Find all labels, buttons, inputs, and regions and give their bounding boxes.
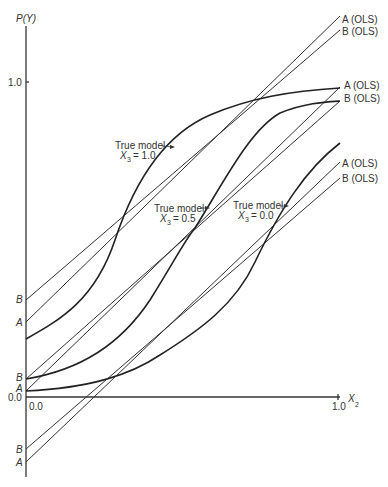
intercept-labels: B A B A B A (15, 294, 23, 468)
svg-text:= 0.5: = 0.5 (173, 213, 196, 224)
svg-text:= 0.0: = 0.0 (251, 210, 274, 221)
y-tick-label-1: 1.0 (8, 77, 22, 88)
label-b-middle: B (16, 372, 23, 383)
ols-b-x3-1 (26, 30, 340, 300)
label-a-upper: A (15, 317, 23, 328)
x-tick-label-0: 0.0 (29, 401, 43, 412)
ols-label-a-1: A (OLS) (342, 14, 378, 25)
chart: B A B A B A P(Y) 1.0 0.0 0.0 1.0 X 2 A (… (0, 0, 388, 487)
ols-label-b-1: B (OLS) (342, 26, 378, 37)
ols-label-a-05: A (OLS) (344, 80, 380, 91)
svg-text:X: X (159, 213, 167, 224)
y-tick-label-0: 0.0 (8, 392, 22, 403)
annotation-x3-1: True model X 3 = 1.0 (115, 140, 175, 163)
svg-text:X: X (237, 210, 245, 221)
x-axis-label: X 2 (347, 393, 359, 408)
label-b-upper: B (16, 294, 23, 305)
ols-label-a-0: A (OLS) (342, 158, 378, 169)
svg-text:3: 3 (167, 219, 171, 226)
axes (26, 26, 340, 477)
ols-a-x3-05 (26, 87, 340, 391)
ols-b-x3-05 (26, 101, 340, 379)
label-a-lower: A (15, 457, 23, 468)
ols-label-b-0: B (OLS) (342, 173, 378, 184)
svg-text:= 1.0: = 1.0 (133, 150, 156, 161)
ols-a-x3-1 (26, 16, 340, 322)
ols-lines (26, 16, 340, 462)
svg-text:2: 2 (355, 401, 359, 408)
svg-text:X: X (347, 393, 355, 404)
svg-text:3: 3 (127, 156, 131, 163)
annotation-x3-05: True model X 3 = 0.5 (154, 203, 210, 226)
label-b-lower: B (16, 444, 23, 455)
y-axis-label: P(Y) (16, 13, 36, 24)
ols-right-labels: A (OLS) B (OLS) A (OLS) B (OLS) A (OLS) … (342, 14, 380, 184)
x-tick-label-1: 1.0 (332, 401, 346, 412)
curve-x3-0 (26, 143, 340, 391)
svg-text:3: 3 (245, 216, 249, 223)
svg-text:X: X (119, 150, 127, 161)
ols-label-b-05: B (OLS) (344, 93, 380, 104)
annotation-x3-0: True model X 3 = 0.0 (233, 200, 289, 223)
